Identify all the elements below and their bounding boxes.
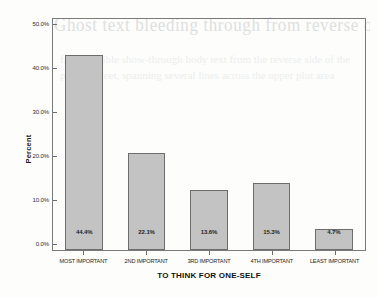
y-axis-tick-label: 30.0%	[32, 109, 53, 115]
scanned-page-background: Ghost text bleeding through from reverse…	[0, 0, 378, 298]
x-axis-tick	[115, 251, 178, 256]
bar-value-label: 22.1%	[129, 229, 164, 235]
x-axis-tick	[52, 251, 115, 256]
bar-value-label: 44.4%	[66, 229, 101, 235]
y-axis-tick-label: 40.0%	[32, 65, 53, 71]
x-axis-title: TO THINK FOR ONE-SELF	[52, 271, 366, 280]
bar-series: 44.4%22.1%13.6%15.3%4.7%	[53, 19, 365, 250]
x-axis-tick	[178, 251, 241, 256]
x-axis-tick-label: 2ND IMPORTANT	[115, 258, 178, 264]
y-axis-tick-label: 0.0%	[36, 241, 53, 247]
x-axis-tick-label: LEAST IMPORTANT	[303, 258, 366, 264]
bar-value-label: 15.3%	[254, 229, 289, 235]
bar-slot: 44.4%	[53, 19, 115, 250]
x-axis-tick-label: MOST IMPORTANT	[52, 258, 115, 264]
y-axis-title: Percent	[24, 135, 33, 164]
bar-slot: 13.6%	[178, 19, 240, 250]
bar[interactable]: 22.1%	[128, 153, 165, 250]
y-axis-tick-label: 10.0%	[32, 197, 53, 203]
bar[interactable]: 13.6%	[190, 190, 227, 250]
bar-slot: 15.3%	[240, 19, 302, 250]
bar[interactable]: 15.3%	[253, 183, 290, 250]
bar-slot: 4.7%	[303, 19, 365, 250]
plot-area: 0.0%10.0%20.0%30.0%40.0%50.0% 44.4%22.1%…	[52, 18, 366, 251]
x-axis-tick-label: 3RD IMPORTANT	[178, 258, 241, 264]
x-axis-tick	[303, 251, 366, 256]
x-axis-ticks	[52, 251, 366, 256]
bar-slot: 22.1%	[115, 19, 177, 250]
bar-value-label: 4.7%	[316, 229, 351, 235]
x-axis-tick	[240, 251, 303, 256]
y-axis-tick-label: 20.0%	[32, 153, 53, 159]
y-axis-tick-label: 50.0%	[32, 21, 53, 27]
bar-value-label: 13.6%	[191, 229, 226, 235]
bar[interactable]: 4.7%	[315, 229, 352, 250]
x-axis-tick-label: 4TH IMPORTANT	[240, 258, 303, 264]
x-axis-tick-labels: MOST IMPORTANT2ND IMPORTANT3RD IMPORTANT…	[52, 258, 366, 264]
bar[interactable]: 44.4%	[65, 55, 102, 250]
